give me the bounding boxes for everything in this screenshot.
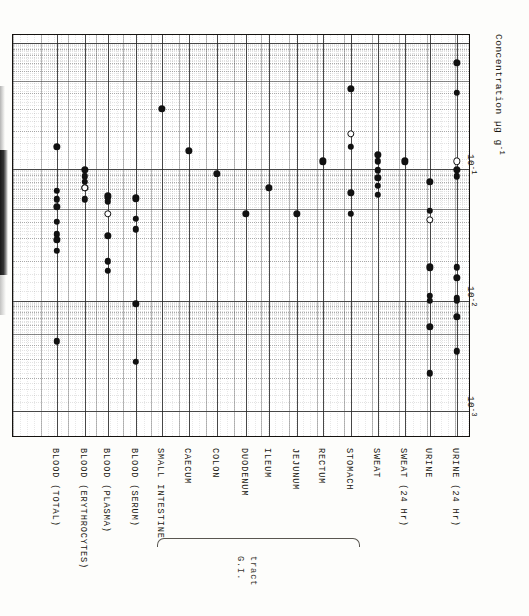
- data-point: [133, 215, 139, 221]
- data-point: [347, 189, 354, 196]
- plot-area: [12, 34, 470, 437]
- category-label-sweat-24-hr: SWEAT (24 Hr): [398, 448, 408, 527]
- data-point: [105, 198, 111, 204]
- data-points-layer: [13, 35, 469, 436]
- data-point: [453, 59, 460, 66]
- gi-tract-label-line2: tract: [248, 556, 258, 586]
- data-point-open: [81, 184, 88, 191]
- category-label-sweat: SWEAT: [371, 448, 381, 478]
- data-point: [319, 158, 326, 165]
- category-label-stomach: STOMACH: [344, 448, 354, 490]
- data-point: [132, 300, 139, 307]
- data-point: [426, 178, 433, 185]
- category-label-colon: COLON: [210, 448, 220, 478]
- data-point-open: [104, 210, 111, 217]
- data-point: [105, 258, 111, 264]
- data-point: [453, 274, 460, 281]
- data-point: [426, 323, 433, 330]
- data-point: [374, 174, 381, 181]
- data-point: [427, 370, 433, 376]
- figure-page: 10-110-210-3 Concentration µg g-1 BLOOD …: [0, 0, 529, 616]
- category-label-blood-erythrocytes: BLOOD (ERYTHROCYTES): [78, 448, 88, 569]
- data-point: [105, 267, 111, 273]
- data-point: [427, 298, 433, 304]
- data-point: [132, 195, 139, 202]
- data-point: [453, 313, 460, 320]
- category-label-urine: URINE: [423, 448, 433, 478]
- data-point-open: [453, 158, 460, 165]
- data-point: [185, 147, 192, 154]
- data-point: [54, 338, 60, 344]
- data-point-open: [426, 216, 433, 223]
- category-label-blood-plasma: BLOOD (PLASMA): [101, 448, 111, 533]
- data-point: [158, 105, 165, 112]
- data-point: [347, 86, 354, 93]
- axis-title: Concentration µg g-1: [493, 34, 506, 155]
- scan-artifact-left: [0, 150, 8, 275]
- data-point: [54, 196, 60, 202]
- tick-label-2: 10-3: [465, 396, 478, 417]
- data-point: [82, 196, 88, 202]
- data-point: [427, 208, 433, 214]
- data-point: [375, 191, 381, 197]
- data-point: [375, 182, 381, 188]
- gi-tract-label: G.I.: [235, 556, 245, 580]
- data-point: [375, 158, 381, 164]
- category-label-urine-24-hr: URINE (24 Hr): [450, 448, 460, 527]
- data-point: [133, 226, 139, 232]
- tick-label-0: 10-1: [465, 154, 478, 175]
- data-point: [454, 298, 460, 304]
- data-point: [454, 173, 460, 179]
- category-label-blood-total: BLOOD (TOTAL): [50, 448, 60, 527]
- data-point: [53, 203, 60, 210]
- data-point: [375, 167, 381, 173]
- scan-artifact-left-lower: [0, 275, 6, 315]
- data-point: [454, 348, 460, 354]
- category-label-duodenum: DUODENUM: [239, 448, 249, 496]
- data-point-open: [347, 130, 354, 137]
- category-label-blood-serum: BLOOD (SERUM): [129, 448, 139, 527]
- gi-tract-bracket: [157, 538, 360, 547]
- data-point: [454, 264, 460, 270]
- data-point: [213, 170, 220, 177]
- data-point: [454, 90, 460, 96]
- data-point: [348, 144, 354, 150]
- data-point: [265, 184, 272, 191]
- data-point: [54, 248, 60, 254]
- data-point: [54, 218, 60, 224]
- data-point: [348, 210, 354, 216]
- category-label-small-intestine: SMALL INTESTINE: [155, 448, 165, 539]
- data-point: [53, 236, 60, 243]
- tick-label-1: 10-2: [465, 286, 478, 307]
- category-label-caecum: CAECUM: [182, 448, 192, 484]
- data-point: [104, 232, 111, 239]
- data-point: [54, 188, 60, 194]
- data-point: [53, 143, 60, 150]
- category-label-rectum: RECTUM: [316, 448, 326, 484]
- data-point: [293, 210, 300, 217]
- category-label-jejunum: JEJUNUM: [290, 448, 300, 490]
- data-point: [133, 359, 139, 365]
- scan-artifact-left-upper: [0, 86, 5, 150]
- data-point: [401, 158, 408, 165]
- data-point: [242, 210, 249, 217]
- category-label-ileum: ILEUM: [262, 448, 272, 478]
- data-point: [374, 151, 381, 158]
- data-point: [426, 264, 433, 271]
